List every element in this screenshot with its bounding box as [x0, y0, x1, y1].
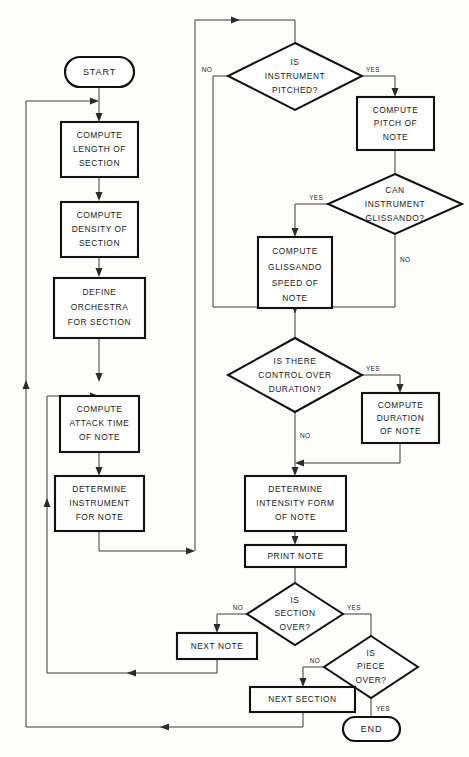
arrowhead-next-note-loop	[127, 670, 136, 677]
node-define-orchestra[interactable]: DEFINE ORCHESTRA FOR SECTION	[54, 278, 145, 338]
edge-label-section-yes: YES	[347, 604, 361, 611]
compute-pitch-line-3: NOTE	[383, 132, 408, 142]
connector-duration-yes	[362, 375, 400, 388]
arrowhead-piece-no	[300, 678, 307, 687]
arrowhead-intensity-to-print	[292, 536, 299, 545]
determine-intensity-line-3: OF NOTE	[275, 512, 316, 522]
edge-label-pitched-no: NO	[202, 66, 212, 73]
node-is-section-over[interactable]: IS SECTION OVER?	[247, 583, 343, 645]
compute-attack-line-2: ATTACK TIME	[69, 418, 129, 428]
node-end[interactable]: END	[343, 717, 400, 741]
is-piece-over-line-1: IS	[366, 648, 375, 658]
edge-label-duration-no: NO	[300, 432, 310, 439]
is-section-over-line-2: SECTION	[274, 608, 315, 618]
arrowhead-next-section-loop	[160, 724, 169, 731]
control-duration-line-1: IS THERE	[274, 356, 317, 366]
can-glissando-line-3: GLISSANDO?	[365, 213, 424, 223]
connector-section-no	[217, 614, 247, 628]
compute-attack-line-1: COMPUTE	[77, 404, 123, 414]
edge-label-glissando-yes: YES	[309, 194, 323, 201]
arrowhead-left-riser-up	[23, 380, 30, 389]
connector-glissando-yes	[295, 204, 328, 232]
compute-glissando-line-1: COMPUTE	[272, 246, 318, 256]
compute-density-line-3: SECTION	[79, 238, 120, 248]
arrowhead-duration-no	[292, 467, 299, 476]
print-note-label: PRINT NOTE	[267, 551, 323, 561]
edge-label-duration-yes: YES	[366, 365, 380, 372]
is-pitched-line-2: INSTRUMENT	[265, 71, 325, 81]
node-compute-pitch[interactable]: COMPUTE PITCH OF NOTE	[357, 97, 434, 150]
arrowhead-note-riser-up	[44, 498, 51, 507]
node-can-glissando[interactable]: CAN INSTRUMENT GLISSANDO?	[328, 174, 462, 234]
is-pitched-line-1: IS	[290, 57, 299, 67]
arrowhead-density-to-orchestra	[96, 268, 103, 277]
connector-duration-box-out	[300, 443, 400, 463]
node-compute-glissando[interactable]: COMPUTE GLISSANDO SPEED OF NOTE	[258, 237, 332, 308]
node-compute-attack[interactable]: COMPUTE ATTACK TIME OF NOTE	[60, 396, 139, 452]
compute-length-line-1: COMPUTE	[77, 130, 123, 140]
start-label: START	[83, 67, 116, 77]
node-is-pitched[interactable]: IS INSTRUMENT PITCHED?	[228, 43, 362, 110]
node-next-section[interactable]: NEXT SECTION	[250, 687, 355, 712]
can-glissando-line-1: CAN	[385, 185, 404, 195]
determine-instrument-line-1: DETERMINE	[72, 484, 126, 494]
node-start[interactable]: START	[65, 57, 134, 87]
compute-glissando-line-4: NOTE	[282, 293, 307, 303]
next-note-label: NEXT NOTE	[191, 641, 244, 651]
edge-label-section-no: NO	[233, 604, 243, 611]
control-duration-line-2: CONTROL OVER	[258, 370, 331, 380]
determine-instrument-line-2: INSTRUMENT	[69, 498, 129, 508]
arrowhead-next-section-into-length	[90, 98, 99, 105]
compute-pitch-line-2: PITCH OF	[374, 118, 417, 128]
connector-pitched-yes	[362, 76, 395, 92]
determine-intensity-line-1: DETERMINE	[268, 484, 322, 494]
arrowhead-section-no	[214, 624, 221, 633]
edge-label-pitched-yes: YES	[366, 66, 380, 73]
is-pitched-line-3: PITCHED?	[272, 85, 318, 95]
control-duration-line-3: DURATION?	[269, 384, 322, 394]
connector-piece-no	[303, 667, 324, 682]
is-piece-over-line-2: PIECE	[357, 661, 385, 671]
arrowhead-start-to-length	[96, 113, 103, 122]
node-print-note[interactable]: PRINT NOTE	[245, 545, 346, 567]
compute-density-line-2: DENSITY OF	[72, 224, 128, 234]
define-orchestra-line-3: FOR SECTION	[68, 317, 131, 327]
edge-label-piece-yes: YES	[376, 705, 390, 712]
node-determine-instrument[interactable]: DETERMINE INSTRUMENT FOR NOTE	[55, 476, 144, 531]
compute-length-line-2: LENGTH OF	[73, 144, 126, 154]
is-section-over-line-3: OVER?	[279, 622, 310, 632]
arrowhead-length-to-density	[96, 192, 103, 201]
arrowhead-glissando-yes	[292, 228, 299, 237]
node-next-note[interactable]: NEXT NOTE	[177, 633, 257, 659]
arrowhead-duration-yes	[397, 384, 404, 393]
compute-length-line-3: SECTION	[79, 158, 120, 168]
can-glissando-line-2: INSTRUMENT	[365, 199, 425, 209]
arrowhead-orchestra-to-attack	[96, 373, 103, 382]
node-compute-length[interactable]: COMPUTE LENGTH OF SECTION	[61, 122, 138, 177]
compute-duration-line-1: COMPUTE	[378, 400, 424, 410]
node-determine-intensity[interactable]: DETERMINE INTENSITY FORM OF NOTE	[245, 476, 346, 531]
determine-instrument-line-3: FOR NOTE	[76, 512, 124, 522]
edge-label-piece-no: NO	[310, 657, 320, 664]
compute-duration-line-2: DURATION	[377, 413, 425, 423]
arrowhead-pitched-yes	[392, 88, 399, 97]
arrowhead-riser-top	[231, 17, 240, 24]
compute-attack-line-3: OF NOTE	[79, 432, 120, 442]
compute-density-line-1: COMPUTE	[77, 210, 123, 220]
end-label: END	[361, 724, 383, 734]
node-compute-duration[interactable]: COMPUTE DURATION OF NOTE	[362, 393, 439, 443]
is-piece-over-line-3: OVER?	[355, 675, 386, 685]
flowchart-canvas: NO YES YES NO YES NO NO YES NO YES START…	[0, 0, 469, 757]
edge-label-glissando-no: NO	[400, 256, 410, 263]
compute-glissando-line-2: GLISSANDO	[268, 262, 322, 272]
define-orchestra-line-2: ORCHESTRA	[71, 302, 129, 312]
compute-pitch-line-1: COMPUTE	[373, 105, 419, 115]
node-control-duration[interactable]: IS THERE CONTROL OVER DURATION?	[228, 338, 362, 412]
connector-section-yes	[343, 614, 371, 636]
node-compute-density[interactable]: COMPUTE DENSITY OF SECTION	[61, 202, 138, 257]
next-section-label: NEXT SECTION	[268, 694, 336, 704]
arrowhead-attack-to-instrument	[96, 467, 103, 476]
arrowhead-duration-merge	[295, 460, 304, 467]
define-orchestra-line-1: DEFINE	[82, 287, 116, 297]
connector-instrument-to-riser	[99, 531, 190, 551]
